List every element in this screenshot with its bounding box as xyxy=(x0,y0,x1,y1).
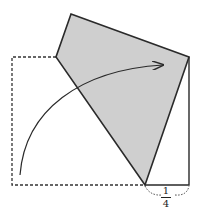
fraction-label: 1 4 xyxy=(158,186,174,209)
denominator: 4 xyxy=(158,199,174,209)
numerator: 1 xyxy=(158,186,174,196)
shaded-piece xyxy=(56,14,189,185)
